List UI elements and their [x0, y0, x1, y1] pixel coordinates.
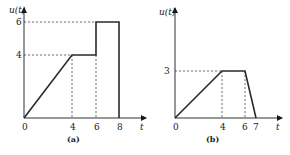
x-axis-label: t	[140, 122, 144, 132]
x-tick-0: 0	[22, 122, 28, 132]
x-tick-4: 4	[70, 122, 76, 132]
x-tick-6: 6	[242, 122, 248, 132]
panel-a: u(t) 6 4 0 4 6 8 t (a)	[9, 5, 146, 144]
y-axis-label: u(t)	[9, 5, 26, 15]
signal-curve	[175, 71, 256, 118]
panel-caption: (a)	[67, 134, 80, 144]
x-tick-4: 4	[220, 122, 226, 132]
x-tick-8: 8	[117, 122, 123, 132]
figure: u(t) 6 4 0 4 6 8 t (a) u(t) 3 0 4 6 7 t …	[0, 0, 290, 155]
y-tick-3: 3	[164, 66, 170, 76]
y-tick-4: 4	[16, 50, 22, 60]
panel-b: u(t) 3 0 4 6 7 t (b)	[159, 7, 282, 144]
y-axis-label: u(t)	[159, 7, 176, 17]
x-tick-6: 6	[94, 122, 100, 132]
panel-caption: (b)	[206, 134, 219, 144]
signal-curve	[24, 22, 119, 118]
y-tick-6: 6	[16, 17, 22, 27]
x-tick-7: 7	[253, 122, 259, 132]
x-axis-label: t	[276, 122, 280, 132]
x-tick-0: 0	[173, 122, 179, 132]
